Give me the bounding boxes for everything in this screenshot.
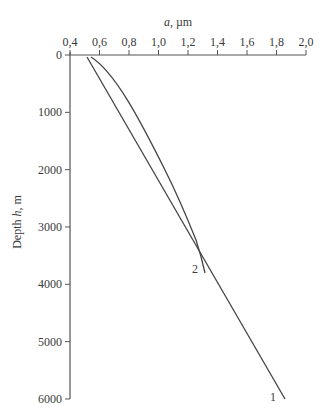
x-ticks: 0,40,60,81,01,21,41,61,82,0 [63, 35, 314, 55]
x-tick-label: 1,6 [240, 35, 255, 49]
x-tick-label: 2,0 [299, 35, 314, 49]
x-axis-label: a, µm [164, 15, 193, 29]
curve-1-label: 1 [270, 390, 276, 404]
y-axis-label: Depth h, m [10, 195, 24, 249]
y-tick-label: 3000 [38, 220, 62, 234]
x-tick-label: 1,0 [151, 35, 166, 49]
curve-1 [87, 57, 285, 399]
y-tick-label: 5000 [38, 335, 62, 349]
y-tick-label: 6000 [38, 392, 62, 406]
x-tick-label: 0,6 [92, 35, 107, 49]
curve-2-label: 2 [192, 262, 198, 276]
x-tick-label: 1,8 [269, 35, 284, 49]
y-tick-label: 4000 [38, 277, 62, 291]
x-tick-label: 1,4 [210, 35, 225, 49]
x-tick-label: 0,8 [122, 35, 137, 49]
y-tick-label: 1000 [38, 105, 62, 119]
depth-chart: a, µm 0,40,60,81,01,21,41,61,82,0 010002… [0, 0, 328, 420]
x-tick-label: 1,2 [181, 35, 196, 49]
y-tick-label: 0 [56, 48, 62, 62]
curve-2 [91, 57, 205, 273]
x-tick-label: 0,4 [63, 35, 78, 49]
y-ticks: 0100020003000400050006000 [38, 48, 70, 406]
y-tick-label: 2000 [38, 163, 62, 177]
